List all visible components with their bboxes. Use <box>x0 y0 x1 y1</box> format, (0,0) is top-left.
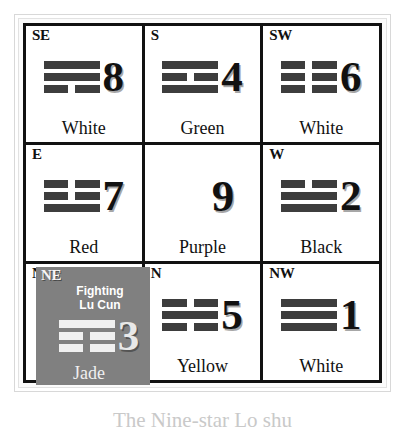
palace-direction-label: W <box>269 146 284 162</box>
palace-color-label: White <box>263 356 379 376</box>
chart-caption: The Nine-star Lo shu <box>0 408 405 431</box>
palace-direction-label: NW <box>269 265 294 281</box>
palace-body: 8 <box>26 48 142 106</box>
star-number: 4 <box>221 55 243 99</box>
palace-n[interactable]: N 5 Yellow <box>145 264 261 380</box>
palace-color-label: White <box>263 118 379 138</box>
palace-direction-label: S <box>151 27 159 43</box>
highlight-annotation: Fighting Lu Cun <box>36 284 150 312</box>
highlight-annotation-line1: Fighting <box>50 284 150 298</box>
palace-color-label: Green <box>145 118 261 138</box>
palace-body: 2 <box>263 167 379 225</box>
palace-direction-label: E <box>32 146 42 162</box>
palace-sw[interactable]: SW 6 White <box>263 26 379 142</box>
trigram-ne-highlight <box>59 320 115 352</box>
palace-body: 1 <box>263 286 379 344</box>
star-number: 6 <box>340 55 362 99</box>
palace-body: 6 <box>263 48 379 106</box>
highlight-annotation-line2: Lu Cun <box>50 298 150 312</box>
palace-body: 9 <box>145 167 261 225</box>
palace-color-label: Black <box>263 237 379 257</box>
trigram-e <box>44 180 100 212</box>
highlight-body: 3 <box>36 313 150 359</box>
palace-direction-label: SE <box>32 27 50 43</box>
highlight-direction-label: NE <box>41 267 61 283</box>
trigram-se <box>44 61 100 93</box>
trigram-w <box>281 180 337 212</box>
highlight-star-number: 3 <box>118 314 140 358</box>
palace-direction-label: SW <box>269 27 292 43</box>
star-number: 7 <box>103 174 125 218</box>
palace-nw[interactable]: NW 1 White <box>263 264 379 380</box>
ne-highlight-overlay[interactable]: NE Fighting Lu Cun 3 Jade <box>36 267 150 385</box>
trigram-n <box>162 299 218 331</box>
trigram-nw <box>281 299 337 331</box>
trigram-s <box>162 61 218 93</box>
trigram-sw <box>281 61 337 93</box>
palace-color-label: White <box>26 118 142 138</box>
palace-e[interactable]: E 7 Red <box>26 145 142 261</box>
palace-w[interactable]: W 2 Black <box>263 145 379 261</box>
star-number: 9 <box>212 174 235 218</box>
star-number: 5 <box>221 293 243 337</box>
star-number: 2 <box>340 174 362 218</box>
highlight-color-label: Jade <box>36 363 150 383</box>
palace-color-label: Red <box>26 237 142 257</box>
palace-center[interactable]: 9 Purple <box>145 145 261 261</box>
palace-color-label: Purple <box>145 237 261 257</box>
palace-color-label: Yellow <box>145 356 261 376</box>
palace-body: 4 <box>145 48 261 106</box>
palace-body: 7 <box>26 167 142 225</box>
star-number: 8 <box>103 55 125 99</box>
palace-body: 5 <box>145 286 261 344</box>
palace-direction-label: N <box>151 265 162 281</box>
palace-se[interactable]: SE 8 White <box>26 26 142 142</box>
palace-s[interactable]: S 4 Green <box>145 26 261 142</box>
star-number: 1 <box>340 293 362 337</box>
